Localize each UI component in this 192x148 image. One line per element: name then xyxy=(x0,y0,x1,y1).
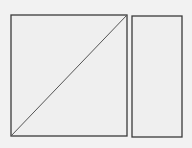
diagram-svg xyxy=(0,0,192,148)
diagram-canvas xyxy=(0,0,192,148)
right-rectangle xyxy=(132,16,182,137)
